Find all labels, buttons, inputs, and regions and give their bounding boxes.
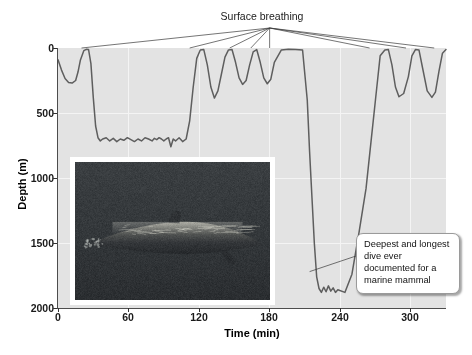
surface-breathing-leader-7 [270, 28, 435, 48]
ytick-label-1000: 1000 [31, 172, 54, 184]
ytick-mark-1000 [53, 178, 57, 179]
x-axis-line [57, 308, 446, 309]
surface-breathing-leader-5 [270, 28, 370, 48]
y-axis-line [57, 48, 58, 309]
surface-breathing-leader-2 [230, 28, 270, 48]
surface-breathing-leader-0 [82, 28, 270, 48]
surface-breathing-leader-1 [190, 28, 270, 48]
ytick-label-2000: 2000 [31, 302, 54, 314]
gridline-depth-500 [58, 113, 446, 114]
xtick-label-300: 300 [401, 311, 419, 323]
ytick-label-1500: 1500 [31, 237, 54, 249]
surface-breathing-leader-6 [270, 28, 406, 48]
surface-breathing-leader-3 [251, 28, 270, 48]
record-dive-callout: Deepest and longest dive ever documented… [356, 233, 460, 294]
y-axis-title: Depth (m) [16, 134, 28, 234]
gridline-time-240 [340, 48, 341, 308]
ytick-mark-1500 [53, 243, 57, 244]
xtick-label-240: 240 [331, 311, 349, 323]
xtick-label-0: 0 [55, 311, 61, 323]
surface-breathing-leader-lines [82, 28, 435, 48]
surface-breathing-label: Surface breathing [221, 10, 304, 22]
ytick-mark-0 [53, 48, 57, 49]
beaked-whale-photo [70, 157, 275, 305]
dive-profile-figure: 0 500 1000 1500 2000 0 60 120 180 240 30… [0, 0, 472, 355]
ytick-mark-2000 [53, 308, 57, 309]
x-axis-title: Time (min) [58, 327, 446, 339]
xtick-label-180: 180 [260, 311, 278, 323]
ytick-label-500: 500 [36, 107, 54, 119]
xtick-label-60: 60 [122, 311, 134, 323]
ytick-mark-500 [53, 113, 57, 114]
xtick-label-120: 120 [190, 311, 208, 323]
beaked-whale-photo-canvas [75, 162, 270, 300]
